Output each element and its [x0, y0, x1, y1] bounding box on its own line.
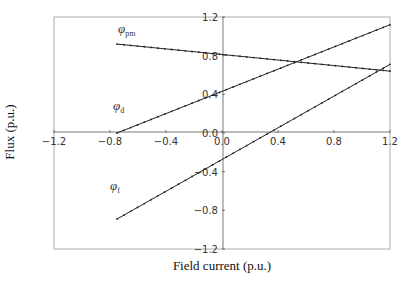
data-point	[355, 67, 357, 69]
data-point	[130, 127, 132, 129]
data-point	[362, 79, 364, 81]
data-point	[137, 207, 139, 209]
data-point	[280, 59, 282, 61]
data-point	[178, 49, 180, 51]
data-point	[321, 63, 323, 65]
data-point	[375, 69, 377, 71]
data-point	[143, 121, 145, 123]
data-point	[369, 68, 371, 70]
data-point	[273, 59, 275, 61]
data-point	[123, 44, 125, 46]
data-point	[321, 102, 323, 104]
data-point	[191, 51, 193, 53]
data-point	[212, 164, 214, 166]
data-point	[266, 73, 268, 75]
data-point	[143, 46, 145, 48]
data-point	[205, 52, 207, 54]
series-label-pm: φpm	[118, 21, 136, 38]
data-point	[225, 54, 227, 56]
data-point	[348, 66, 350, 68]
data-point	[273, 129, 275, 131]
data-point	[239, 83, 241, 85]
data-point	[218, 160, 220, 162]
data-point	[130, 210, 132, 212]
y-tick-label: −1.2	[194, 244, 218, 255]
data-point	[307, 110, 309, 112]
data-point	[341, 43, 343, 45]
data-point	[225, 89, 227, 91]
data-point	[280, 125, 282, 127]
data-point	[212, 94, 214, 96]
data-point	[171, 110, 173, 112]
data-point	[382, 27, 384, 29]
data-point	[307, 56, 309, 58]
data-point	[287, 121, 289, 123]
data-point	[212, 53, 214, 55]
data-point	[178, 183, 180, 185]
data-point	[184, 105, 186, 107]
data-point	[198, 100, 200, 102]
data-point	[355, 37, 357, 39]
data-point	[171, 49, 173, 51]
data-point	[150, 47, 152, 49]
data-point	[184, 179, 186, 181]
data-point	[116, 43, 118, 45]
y-axis-title: Flux (p.u.)	[2, 104, 17, 159]
data-point	[335, 94, 337, 96]
data-point	[348, 87, 350, 89]
data-point	[137, 45, 139, 47]
data-point	[116, 218, 118, 220]
data-point	[328, 48, 330, 50]
x-axis-title: Field current (p.u.)	[173, 258, 271, 273]
data-point	[164, 191, 166, 193]
data-point	[171, 187, 173, 189]
data-point	[369, 75, 371, 77]
data-point	[143, 203, 145, 205]
data-point	[314, 106, 316, 108]
data-point	[178, 108, 180, 110]
data-point	[164, 113, 166, 115]
y-tick-label: 1.2	[202, 12, 218, 23]
flux-chart: −1.2−0.8−0.40.00.40.81.21.20.80.40.0−0.4…	[0, 0, 406, 286]
series-label-d: φd	[113, 98, 124, 115]
data-point	[389, 24, 391, 26]
data-point	[253, 57, 255, 59]
data-point	[164, 48, 166, 50]
data-point	[184, 50, 186, 52]
data-point	[150, 199, 152, 201]
x-tick-label: 1.2	[382, 136, 398, 147]
data-point	[294, 62, 296, 64]
data-point	[123, 129, 125, 131]
data-point	[259, 75, 261, 77]
data-point	[191, 176, 193, 178]
data-point	[246, 145, 248, 147]
data-point	[375, 29, 377, 31]
x-tick-label: −0.8	[98, 136, 122, 147]
data-point	[335, 45, 337, 47]
x-tick-label: −0.4	[154, 136, 178, 147]
x-tick-label: 0.4	[270, 136, 286, 147]
data-point	[157, 116, 159, 118]
data-point	[362, 68, 364, 70]
data-point	[307, 62, 309, 64]
data-point	[157, 47, 159, 49]
data-point	[300, 61, 302, 63]
data-point	[287, 60, 289, 62]
data-point	[205, 168, 207, 170]
data-point	[314, 63, 316, 65]
y-tick-label: 0.0	[202, 128, 218, 139]
data-point	[198, 51, 200, 53]
data-point	[314, 54, 316, 56]
data-point	[253, 78, 255, 80]
data-point	[130, 45, 132, 47]
data-point	[273, 70, 275, 72]
data-point	[369, 32, 371, 34]
data-point	[239, 149, 241, 151]
data-point	[191, 102, 193, 104]
data-point	[232, 86, 234, 88]
data-point	[300, 114, 302, 116]
data-point	[321, 51, 323, 53]
data-point	[205, 97, 207, 99]
data-point	[389, 63, 391, 65]
data-point	[362, 35, 364, 37]
